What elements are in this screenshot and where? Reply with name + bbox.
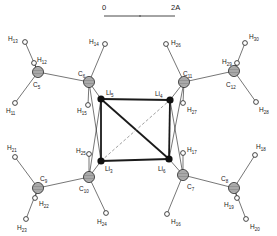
hydrogen-atom-icon (235, 196, 240, 201)
atom-c12 (229, 66, 240, 77)
hydrogen-atom-icon (24, 217, 29, 222)
atom-label-c7: C7 (187, 183, 195, 192)
atom-h26 (164, 42, 169, 47)
atom-h17 (181, 151, 186, 156)
atom-h15 (86, 103, 91, 108)
atom-label-h23: H23 (17, 224, 27, 233)
hydrogen-atom-icon (33, 196, 38, 201)
atom-c9 (33, 183, 44, 194)
hydrogen-atom-icon (13, 101, 18, 106)
lithium-atom-icon (165, 155, 172, 162)
bond-c6-li3 (89, 82, 101, 161)
structure-canvas: 0 2A Li5Li4Li3Li6C5C6C11C12C9C10C7C8H11H… (0, 0, 277, 236)
lithium-atom-icon (97, 157, 104, 164)
atom-label-c6: C6 (78, 70, 86, 79)
hydrogen-atom-icon (253, 153, 258, 158)
atom-h27 (181, 101, 186, 106)
atom-label-h20: H20 (250, 223, 260, 232)
hydrogen-atom-icon (254, 100, 259, 105)
hydrogen-atom-icon (243, 41, 248, 46)
atom-h21 (13, 155, 18, 160)
bond-li5-li6 (101, 99, 169, 159)
atom-li6 (165, 155, 172, 162)
atom-label-h30: H30 (249, 33, 259, 42)
atom-label-h24: H24 (97, 218, 107, 227)
atom-c8 (229, 183, 240, 194)
atom-h25 (87, 152, 92, 157)
hydrogen-atom-icon (86, 103, 91, 108)
bond-c10-h24 (89, 177, 106, 213)
atom-li4 (166, 96, 173, 103)
atom-label-c5: C5 (33, 81, 41, 90)
scale-end-label: 2A (171, 3, 180, 12)
bond-c11-h26 (166, 44, 184, 82)
atom-h19 (235, 196, 240, 201)
scale-start-label: 0 (102, 3, 106, 12)
hydrogen-atom-icon (165, 212, 170, 217)
atom-h28 (254, 100, 259, 105)
atom-label-h11: H11 (6, 107, 16, 116)
atom-label-h17: H17 (187, 146, 197, 155)
atom-h18 (253, 153, 258, 158)
atom-label-h25: H25 (76, 147, 86, 156)
atom-label-h18: H18 (256, 143, 266, 152)
scale-bar: 0 2A (102, 3, 180, 17)
atom-label-h27: H27 (187, 106, 197, 115)
hydrogen-atom-icon (181, 101, 186, 106)
atom-label-h26: H26 (171, 39, 181, 48)
atom-h12 (32, 61, 37, 66)
bond-c6-h14 (89, 44, 105, 82)
atom-label-li5: Li5 (106, 89, 114, 98)
atom-h20 (244, 217, 249, 222)
atom-label-h15: H15 (77, 107, 87, 116)
bonds-layer (15, 42, 256, 219)
hydrogen-atom-icon (23, 40, 28, 45)
atom-h29 (235, 61, 240, 66)
atom-label-h29: H29 (222, 58, 232, 67)
hydrogen-atom-icon (87, 152, 92, 157)
atom-c7 (178, 170, 189, 181)
bond-li5-li4 (101, 99, 170, 100)
bond-li3-li6 (101, 159, 169, 161)
atom-h23 (24, 217, 29, 222)
atom-label-li6: Li6 (158, 165, 166, 174)
atom-label-h28: H28 (259, 106, 269, 115)
atom-c10 (84, 172, 95, 183)
bond-c7-h16 (167, 175, 183, 214)
bond-c10-li5 (89, 99, 101, 177)
atom-label-h12: H12 (37, 56, 47, 65)
hydrogen-atom-icon (103, 42, 108, 47)
hydrogen-atom-icon (164, 42, 169, 47)
atom-labels-layer: Li5Li4Li3Li6C5C6C11C12C9C10C7C8H11H12H13… (6, 33, 269, 233)
bond-c11-li6 (169, 82, 184, 159)
hydrogen-atom-icon (32, 61, 37, 66)
atom-label-h21: H21 (7, 144, 17, 153)
atom-h22 (33, 196, 38, 201)
bond-li4-li6 (169, 100, 170, 159)
atom-label-h13: H13 (8, 35, 18, 44)
atom-label-c10: C10 (79, 185, 89, 194)
atom-label-c12: C12 (226, 81, 236, 90)
atom-label-h14: H14 (89, 38, 99, 47)
hydrogen-atom-icon (244, 217, 249, 222)
atom-li3 (97, 157, 104, 164)
atom-h14 (103, 42, 108, 47)
atom-h16 (165, 212, 170, 217)
atom-c5 (33, 67, 44, 78)
hydrogen-atom-icon (13, 155, 18, 160)
atom-label-c8: C8 (221, 175, 229, 184)
molecular-structure-diagram: 0 2A Li5Li4Li3Li6C5C6C11C12C9C10C7C8H11H… (0, 0, 277, 236)
atom-h30 (243, 41, 248, 46)
bond-c7-li4 (170, 100, 183, 175)
lithium-atom-icon (97, 95, 104, 102)
atom-label-h16: H16 (171, 218, 181, 227)
atom-h11 (13, 101, 18, 106)
atom-li5 (97, 95, 104, 102)
hydrogen-atom-icon (181, 151, 186, 156)
atom-label-h22: H22 (39, 200, 49, 209)
atom-label-li4: Li4 (155, 90, 163, 99)
lithium-atom-icon (166, 96, 173, 103)
atom-label-c9: C9 (40, 175, 48, 184)
hydrogen-atom-icon (104, 211, 109, 216)
atom-label-h19: H19 (224, 201, 234, 210)
